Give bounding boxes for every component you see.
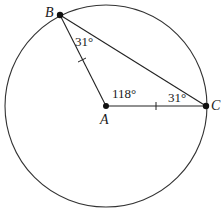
label-B: B: [45, 5, 54, 20]
label-A: A: [99, 112, 109, 127]
angle-label-B: 31°: [75, 34, 93, 49]
point-A: [103, 103, 109, 109]
angle-label-C: 31°: [168, 90, 186, 105]
point-B: [57, 12, 63, 18]
point-C: [203, 103, 209, 109]
segment-AB: [60, 15, 106, 106]
angle-label-A: 118°: [112, 86, 136, 101]
geometry-diagram: B A C 31° 118° 31°: [0, 0, 222, 209]
label-C: C: [211, 98, 221, 113]
